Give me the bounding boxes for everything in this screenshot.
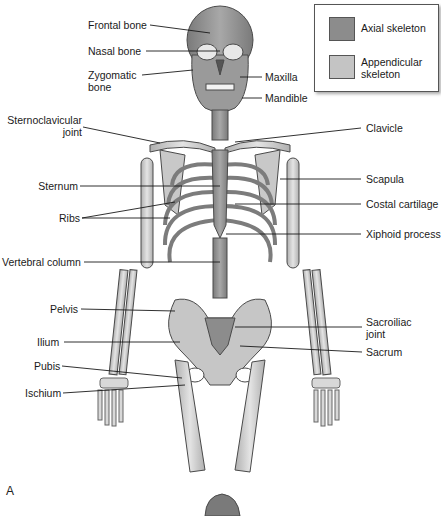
label-maxilla: Maxilla: [265, 71, 298, 83]
skull: [187, 6, 253, 112]
label-nasal-bone: Nasal bone: [88, 45, 141, 57]
label-mandible: Mandible: [265, 92, 308, 104]
label-ilium: Ilium: [37, 336, 59, 348]
legend-label-appendicular: Appendicular skeleton: [361, 56, 422, 80]
label-sternum: Sternum: [4, 180, 78, 192]
legend: Axial skeleton Appendicular skeleton: [314, 4, 439, 92]
label-vertebral-column: Vertebral column: [2, 256, 81, 268]
label-clavicle: Clavicle: [366, 122, 403, 134]
label-scapula: Scapula: [366, 173, 404, 185]
label-pelvis: Pelvis: [50, 303, 78, 315]
label-frontal-bone: Frontal bone: [88, 19, 147, 31]
label-sacroiliac-joint: Sacroiliac joint: [366, 316, 412, 340]
label-xiphoid-process: Xiphoid process: [366, 228, 441, 240]
legend-swatch-axial: [329, 17, 355, 41]
label-sternoclavicular-joint: Sternoclavicular joint: [4, 114, 82, 138]
label-costal-cartilage: Costal cartilage: [366, 198, 438, 210]
legend-label-axial: Axial skeleton: [361, 22, 426, 34]
label-zygomatic-bone: Zygomatic bone: [88, 69, 136, 93]
legend-swatch-appendicular: [329, 55, 355, 79]
panel-label: A: [6, 484, 14, 498]
label-ischium: Ischium: [25, 387, 61, 399]
label-sacrum: Sacrum: [366, 346, 402, 358]
label-ribs: Ribs: [4, 212, 80, 224]
label-pubis: Pubis: [34, 360, 60, 372]
